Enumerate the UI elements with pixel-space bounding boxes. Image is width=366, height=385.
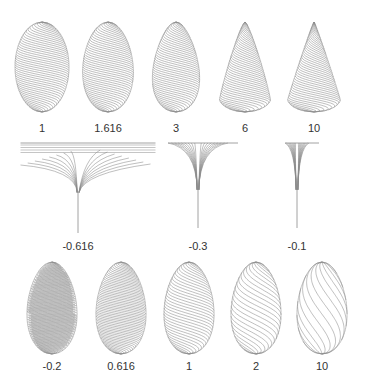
bottom-shape-5-outline-right xyxy=(322,262,347,354)
funnel-3-curve-right xyxy=(298,143,305,190)
funnel-1-curve-right xyxy=(79,152,107,193)
label-top-5: 10 xyxy=(284,122,344,134)
funnel-1-curve-left xyxy=(21,165,78,193)
label-bottom-4: 2 xyxy=(226,360,286,372)
bottom-shape-4-outline-right xyxy=(256,262,281,354)
funnel-2-curve-left xyxy=(168,143,197,190)
label-top-2: 1.616 xyxy=(78,122,138,134)
top-shape-3-helix-line xyxy=(153,22,198,96)
label-mid-1: -0.616 xyxy=(48,240,108,252)
bottom-shape-3-outline-right xyxy=(189,262,214,354)
funnel-1-curve-left xyxy=(56,155,77,193)
label-mid-3: -0.1 xyxy=(267,240,327,252)
funnel-1-curve-left xyxy=(42,159,77,193)
funnel-3-curve-right xyxy=(298,143,309,190)
label-bottom-2: 0.616 xyxy=(91,360,151,372)
funnel-3-curve-left xyxy=(285,143,296,190)
label-mid-2: -0.3 xyxy=(168,240,228,252)
bottom-shape-5-helix-line xyxy=(316,262,344,340)
funnel-2-curve-right xyxy=(199,143,228,190)
bottom-shape-4-helix-line xyxy=(231,262,274,344)
label-top-3: 3 xyxy=(146,122,206,134)
bottom-shape-5-helix-line xyxy=(322,262,343,287)
top-shape-2-helix-line xyxy=(84,22,133,101)
label-top-4: 6 xyxy=(215,122,275,134)
top-shape-1-outline-left xyxy=(15,22,42,112)
label-top-1: 1 xyxy=(12,122,72,134)
label-bottom-3: 1 xyxy=(159,360,219,372)
funnel-3-curve-left xyxy=(289,143,296,190)
figure-canvas xyxy=(0,0,366,385)
bottom-shape-5-helix-line xyxy=(300,288,326,354)
top-shape-2-outline-left xyxy=(83,22,108,112)
top-shape-4-helix-line xyxy=(224,22,269,96)
bottom-shape-5-outline-left xyxy=(297,262,322,354)
top-shape-1-helix-line xyxy=(15,34,67,112)
bottom-shape-3-helix-line xyxy=(164,265,211,333)
label-bottom-5: 10 xyxy=(292,360,352,372)
bottom-shape-4-helix-line xyxy=(231,262,274,354)
label-bottom-1: -0.2 xyxy=(22,360,82,372)
funnel-1-curve-right xyxy=(79,164,151,193)
funnel-1-curve-left xyxy=(28,163,77,193)
top-shape-2-helix-line xyxy=(84,22,133,96)
